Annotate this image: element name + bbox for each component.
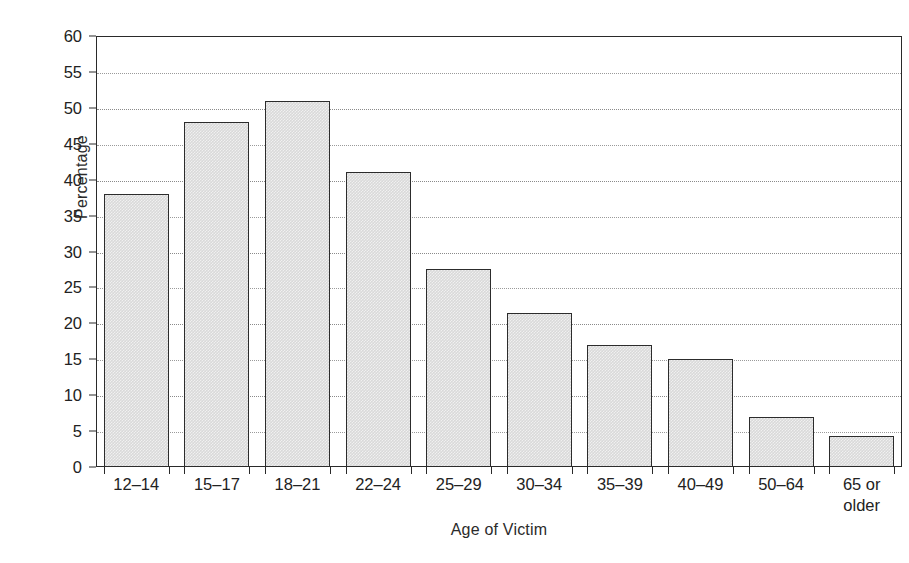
y-axis-tick-mark: [89, 359, 96, 360]
x-axis-tick-label: 15–17: [177, 474, 258, 495]
bar-item: [265, 36, 330, 467]
bar: [507, 313, 572, 467]
x-axis-tick-mark: [330, 467, 331, 474]
x-axis-tick-label: 35–39: [580, 474, 661, 495]
x-axis-tick-mark: [184, 467, 185, 474]
y-axis-tick-label: 20: [64, 314, 82, 333]
x-axis-tick-label: 30–34: [499, 474, 580, 495]
bar: [426, 269, 491, 467]
x-axis-tick-mark: [169, 467, 170, 474]
bar-item: [104, 36, 169, 467]
x-axis-tick-mark: [491, 467, 492, 474]
bar-item: [346, 36, 411, 467]
x-axis-title: Age of Victim: [96, 521, 902, 539]
x-axis-tick-mark: [346, 467, 347, 474]
y-axis-tick-label: 15: [64, 350, 82, 369]
y-axis-tick-mark: [89, 179, 96, 180]
x-axis-tick-label: 18–21: [257, 474, 338, 495]
x-axis-tick-mark: [749, 467, 750, 474]
y-axis-tick-label: 55: [64, 62, 82, 81]
bar-item: [587, 36, 652, 467]
y-axis-tick-mark: [89, 143, 96, 144]
x-axis-tick-mark: [411, 467, 412, 474]
x-axis-tick-label: 50–64: [741, 474, 822, 495]
x-axis-tick-mark: [668, 467, 669, 474]
y-axis-tick-label: 40: [64, 170, 82, 189]
y-axis-tick-label: 45: [64, 134, 82, 153]
bar: [587, 345, 652, 467]
y-axis-tick-mark: [89, 431, 96, 432]
bar-item: [507, 36, 572, 467]
x-axis-tick-mark: [814, 467, 815, 474]
y-axis-tick-label: 35: [64, 206, 82, 225]
x-axis-tick-mark: [265, 467, 266, 474]
x-axis-tick-mark: [894, 467, 895, 474]
bar-item: [426, 36, 491, 467]
y-axis-tick-mark: [89, 323, 96, 324]
y-axis-tick-mark: [89, 395, 96, 396]
y-axis-tick-mark: [89, 215, 96, 216]
bar-chart-figure: Percentage 051015202530354045505560 12–1…: [0, 0, 909, 563]
bar: [829, 436, 894, 467]
x-axis-tick-label: 25–29: [418, 474, 499, 495]
y-axis-tick-label: 0: [73, 458, 82, 477]
x-axis-tick-mark: [829, 467, 830, 474]
y-axis-tick-label: 10: [64, 386, 82, 405]
x-axis-tick-mark: [104, 467, 105, 474]
bar: [104, 194, 169, 467]
bar: [749, 417, 814, 467]
y-axis-tick-label: 50: [64, 98, 82, 117]
x-axis-tick-mark: [426, 467, 427, 474]
y-axis-tick-mark: [89, 71, 96, 72]
bar: [668, 359, 733, 467]
bar-series: [96, 36, 902, 467]
bar-item: [184, 36, 249, 467]
x-axis-tick-label: 22–24: [338, 474, 419, 495]
x-axis-tick-label: 65 or older: [821, 474, 902, 516]
y-axis-tick-label: 25: [64, 278, 82, 297]
y-axis-tick-mark: [89, 36, 96, 37]
x-axis-tick-mark: [733, 467, 734, 474]
bar: [265, 101, 330, 467]
y-axis-tick-mark: [89, 287, 96, 288]
y-axis-tick-label: 60: [64, 27, 82, 46]
y-axis-tick-group: 051015202530354045505560: [0, 36, 96, 467]
x-axis-tick-mark: [587, 467, 588, 474]
bar: [346, 172, 411, 467]
bar-item: [668, 36, 733, 467]
x-axis-tick-mark: [249, 467, 250, 474]
x-axis-tick-mark: [572, 467, 573, 474]
y-axis-tick-label: 30: [64, 242, 82, 261]
bar-item: [749, 36, 814, 467]
bar: [184, 122, 249, 467]
y-axis-tick-mark: [89, 251, 96, 252]
x-axis-tick-label: 40–49: [660, 474, 741, 495]
y-axis-tick-label: 5: [73, 422, 82, 441]
x-axis-tick-mark: [652, 467, 653, 474]
x-axis-tick-label: 12–14: [96, 474, 177, 495]
bar-item: [829, 36, 894, 467]
x-axis-tick-mark: [507, 467, 508, 474]
y-axis-tick-mark: [89, 107, 96, 108]
y-axis-tick-mark: [89, 467, 96, 468]
